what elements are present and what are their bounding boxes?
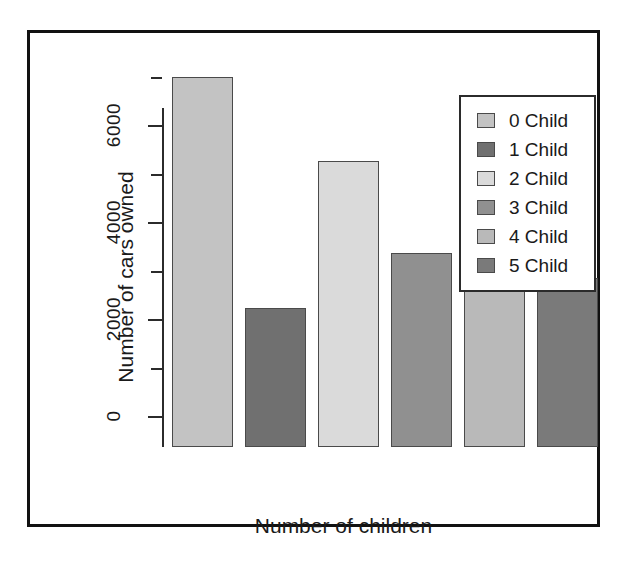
legend-item-5: 5 Child — [461, 251, 594, 280]
legend-swatch-icon-1 — [477, 142, 495, 157]
figure-frame: 0200040006000 Number of cars owned 0 Chi… — [27, 30, 600, 527]
bar-1 — [245, 308, 306, 447]
y-tick-3000 — [151, 271, 162, 273]
bar-4 — [464, 278, 525, 448]
y-tick-7000 — [151, 77, 162, 79]
legend-item-4: 4 Child — [461, 222, 594, 251]
bar-3 — [391, 253, 452, 447]
chart-figure: 0200040006000 Number of cars owned 0 Chi… — [0, 0, 632, 573]
legend-box: 0 Child1 Child2 Child3 Child4 Child5 Chi… — [459, 95, 596, 292]
legend-label-1: 1 Child — [509, 139, 568, 161]
bar-5 — [537, 278, 598, 448]
bar-0 — [172, 77, 233, 447]
y-axis-title-wrapper: Number of cars owned — [78, 33, 79, 34]
legend-swatch-icon-2 — [477, 171, 495, 186]
legend-item-1: 1 Child — [461, 135, 594, 164]
legend-swatch-icon-5 — [477, 258, 495, 273]
bar-2 — [318, 161, 379, 447]
legend-label-3: 3 Child — [509, 197, 568, 219]
y-axis-title: Number of cars owned — [114, 167, 138, 387]
legend-label-2: 2 Child — [509, 168, 568, 190]
y-tick-label-6000: 6000 — [103, 95, 125, 155]
y-tick-4000 — [148, 222, 162, 224]
x-axis-title: Number of children — [57, 514, 630, 538]
legend-item-0: 0 Child — [461, 106, 594, 135]
legend-label-0: 0 Child — [509, 110, 568, 132]
y-tick-1000 — [151, 368, 162, 370]
legend-label-4: 4 Child — [509, 226, 568, 248]
legend-item-2: 2 Child — [461, 164, 594, 193]
y-tick-0 — [148, 416, 162, 418]
y-tick-2000 — [148, 319, 162, 321]
y-tick-5000 — [151, 174, 162, 176]
legend-swatch-icon-0 — [477, 113, 495, 128]
y-tick-label-0: 0 — [103, 386, 125, 446]
legend-label-5: 5 Child — [509, 255, 568, 277]
legend-swatch-icon-4 — [477, 229, 495, 244]
legend-item-3: 3 Child — [461, 193, 594, 222]
y-tick-6000 — [148, 125, 162, 127]
legend-swatch-icon-3 — [477, 200, 495, 215]
y-axis-line — [162, 108, 164, 447]
